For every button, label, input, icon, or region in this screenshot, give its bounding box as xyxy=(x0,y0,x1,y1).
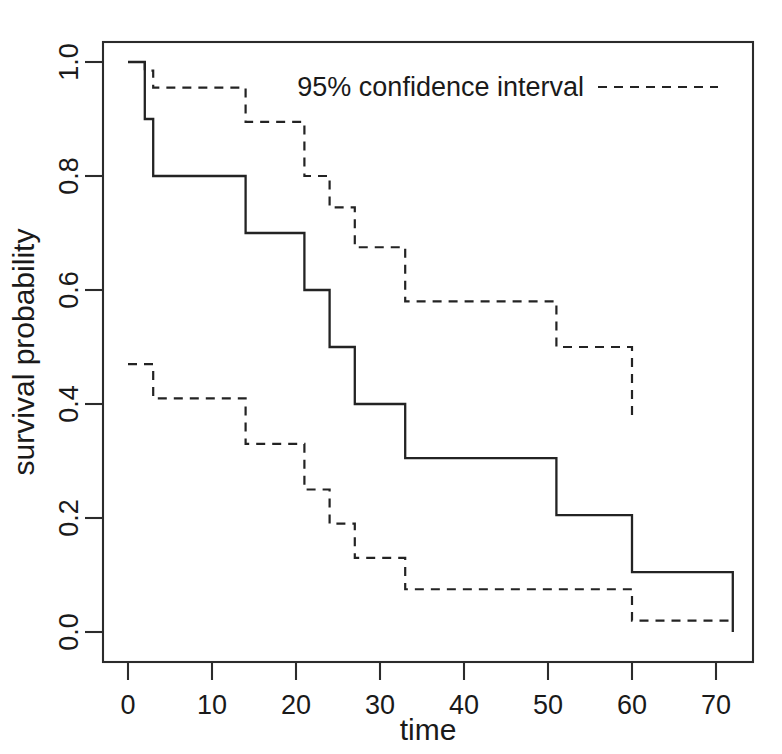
legend: 95% confidence interval xyxy=(297,72,718,102)
y-tick-label-0.4: 0.4 xyxy=(54,385,84,423)
x-tick-label-10: 10 xyxy=(197,690,227,720)
y-axis-ticks xyxy=(85,62,103,632)
y-tick-label-0.8: 0.8 xyxy=(54,157,84,195)
y-axis-tick-labels: 0.00.20.40.60.81.0 xyxy=(54,43,84,651)
x-tick-label-50: 50 xyxy=(533,690,563,720)
legend-label-confidence-interval: 95% confidence interval xyxy=(297,72,584,102)
survival-chart: 010203040506070 0.00.20.40.60.81.0 95% c… xyxy=(0,0,782,754)
y-tick-label-0.2: 0.2 xyxy=(54,499,84,537)
x-tick-label-30: 30 xyxy=(365,690,395,720)
lower-confidence-limit-line xyxy=(128,364,733,620)
x-axis-ticks xyxy=(128,662,716,680)
x-tick-label-0: 0 xyxy=(120,690,135,720)
y-tick-label-0.0: 0.0 xyxy=(54,613,84,651)
x-tick-label-60: 60 xyxy=(617,690,647,720)
x-tick-label-70: 70 xyxy=(701,690,731,720)
x-axis-title: time xyxy=(400,713,457,746)
x-tick-label-20: 20 xyxy=(281,690,311,720)
y-tick-label-1.0: 1.0 xyxy=(54,43,84,81)
survival-plot-figure: 010203040506070 0.00.20.40.60.81.0 95% c… xyxy=(0,0,782,754)
y-tick-label-0.6: 0.6 xyxy=(54,271,84,309)
plot-frame xyxy=(103,42,753,662)
kaplan-meier-survival-line xyxy=(128,62,733,632)
y-axis-title: survival probability xyxy=(7,229,40,476)
upper-confidence-limit-line xyxy=(128,62,632,421)
